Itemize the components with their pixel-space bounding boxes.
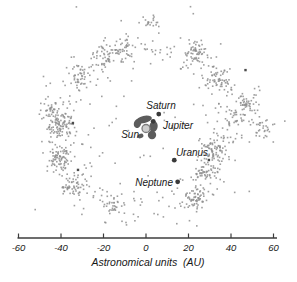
x-axis-tick-label: 60 [268, 242, 279, 253]
label-uranus: Uranus [176, 147, 208, 158]
x-axis-tick-label: -20 [97, 242, 111, 253]
kbo-scatter-points [34, 6, 285, 227]
x-axis-tick-label: -40 [54, 242, 68, 253]
x-axis-tick-label: 0 [143, 242, 149, 253]
dense-dark-spots [72, 69, 247, 171]
planet-dot-neptune [175, 179, 180, 184]
planet-dot-saturn [156, 112, 161, 117]
x-axis: -60-40-200204060 Astronomical units (AU) [12, 234, 280, 269]
x-axis-tick-label: 20 [182, 242, 194, 253]
x-axis-tick-label: -60 [12, 242, 26, 253]
x-axis-title: Astronomical units (AU) [90, 256, 204, 268]
planet-dot-jupiter [151, 119, 156, 124]
kuiper-belt-figure: SunJupiterSaturnUranusNeptune -60-40-200… [0, 0, 297, 282]
planet-dot-uranus [172, 158, 177, 163]
x-axis-ticks: -60-40-200204060 [12, 234, 280, 253]
label-jupiter: Jupiter [162, 120, 194, 131]
label-sun: Sun [121, 129, 139, 140]
sun-marker [142, 125, 150, 133]
label-saturn: Saturn [146, 100, 176, 111]
label-neptune: Neptune [135, 177, 173, 188]
x-axis-tick-label: 40 [226, 242, 237, 253]
scatter-plot: SunJupiterSaturnUranusNeptune -60-40-200… [0, 0, 297, 282]
